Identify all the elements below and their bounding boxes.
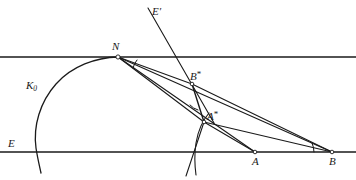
label-A: A bbox=[252, 156, 259, 167]
point-B-star bbox=[190, 82, 194, 86]
label-A-star-text: A bbox=[207, 110, 214, 122]
geometry-figure: E′ N B* K0 A* E A B bbox=[0, 0, 356, 180]
label-N: N bbox=[112, 41, 119, 52]
label-B: B bbox=[329, 156, 336, 167]
star-glyph: * bbox=[214, 109, 219, 119]
chord-N-to-B bbox=[118, 57, 332, 152]
ray-E-prime bbox=[148, 8, 214, 123]
label-B-star: B* bbox=[190, 70, 201, 82]
label-N-text: N bbox=[112, 40, 119, 52]
label-A-text: A bbox=[252, 155, 259, 167]
seg-A-star-to-A bbox=[204, 122, 255, 152]
prime-glyph: ′ bbox=[159, 5, 161, 17]
point-A bbox=[253, 150, 257, 154]
label-E: E bbox=[8, 138, 15, 149]
seg-A-star-to-B bbox=[204, 122, 332, 152]
chord-N-to-B-star bbox=[118, 57, 192, 84]
label-E-prime-text: E bbox=[152, 5, 159, 17]
arc-K0 bbox=[35, 57, 118, 173]
label-A-star: A* bbox=[207, 110, 218, 122]
label-B-text: B bbox=[329, 155, 336, 167]
point-A-star bbox=[202, 120, 206, 124]
label-E-text: E bbox=[8, 137, 15, 149]
geometry-canvas bbox=[0, 0, 356, 180]
point-N bbox=[116, 55, 120, 59]
star-glyph: * bbox=[197, 69, 202, 79]
label-K0: K0 bbox=[26, 80, 37, 93]
label-B-star-text: B bbox=[190, 70, 197, 82]
subscript-zero: 0 bbox=[33, 84, 37, 93]
point-B bbox=[330, 150, 334, 154]
label-E-prime: E′ bbox=[152, 6, 161, 17]
